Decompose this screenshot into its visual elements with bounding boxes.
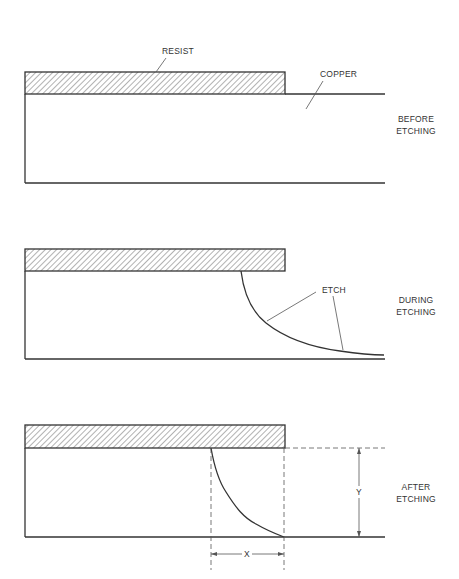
etch-profile-curve: [241, 271, 384, 355]
etch-leader-line-2: [333, 296, 343, 350]
stage-label-after-line2: ETCHING: [396, 494, 436, 504]
y-arrow-bottom-icon: [357, 531, 361, 537]
resist-layer: [25, 72, 285, 94]
etch-profile-curve: [211, 448, 284, 537]
etch-leader-line-1: [267, 292, 316, 321]
y-arrow-top-icon: [357, 448, 361, 454]
stage-label-during-line1: DURING: [399, 295, 434, 305]
panel-before-etching: RESIST COPPER BEFORE ETCHING: [25, 46, 436, 183]
stage-label-before-line2: ETCHING: [396, 126, 436, 136]
stage-label-after-line1: AFTER: [402, 482, 431, 492]
panel-during-etching: ETCH DURING ETCHING: [25, 249, 436, 359]
x-arrow-right-icon: [278, 552, 284, 556]
resist-label: RESIST: [162, 46, 194, 56]
copper-leader-line: [306, 81, 323, 109]
etch-label: ETCH: [322, 285, 346, 295]
resist-layer: [25, 249, 285, 271]
stage-label-during-line2: ETCHING: [396, 307, 436, 317]
resist-layer: [25, 425, 285, 448]
stage-label-before-line1: BEFORE: [398, 114, 434, 124]
panel-after-etching: Y X AFTER ETCHING: [25, 425, 436, 570]
etching-diagram: RESIST COPPER BEFORE ETCHING ETCH DURING…: [0, 0, 459, 579]
y-dimension-label: Y: [356, 487, 362, 497]
x-dimension-label: X: [244, 549, 250, 559]
x-arrow-left-icon: [211, 552, 217, 556]
copper-label: COPPER: [320, 69, 357, 79]
resist-leader-line: [156, 58, 166, 72]
